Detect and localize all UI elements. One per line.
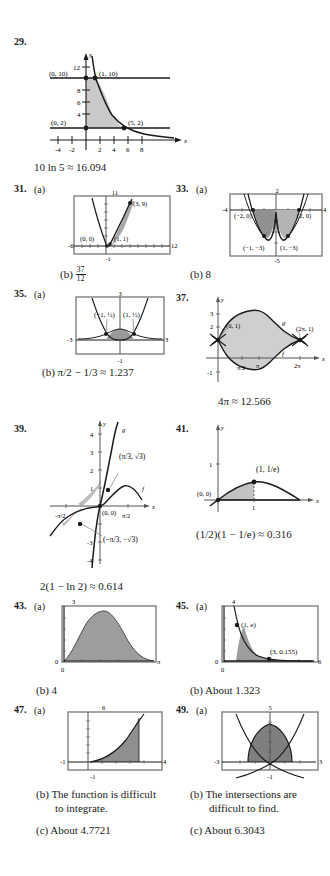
curve-label-f: f [142, 485, 145, 493]
part-label-49a: (a) [196, 705, 207, 716]
svg-text:π/2: π/2 [122, 512, 130, 519]
answer-47c: (c) About 4.7721 [36, 824, 111, 838]
svg-text:3: 3 [210, 310, 213, 317]
part-label-43a: (a) [34, 601, 45, 612]
problem-number-43: 43. [14, 600, 27, 611]
answer-49c: (c) About 6.3043 [190, 824, 265, 838]
point-label: (1, 1/e) [256, 465, 279, 474]
window-left-35: -3 [67, 336, 72, 343]
svg-text:-π/2: -π/2 [55, 512, 66, 519]
answer-37: 4π ≈ 12.566 [218, 395, 271, 407]
svg-text:π/2: π/2 [237, 364, 245, 371]
svg-text:2: 2 [210, 323, 213, 330]
point-label: (0, 10) [49, 70, 68, 78]
svg-text:1: 1 [90, 485, 93, 492]
svg-text:3: 3 [90, 449, 93, 456]
svg-text:4: 4 [90, 431, 94, 438]
window-bottom-47: -1 [90, 773, 95, 780]
svg-text:6: 6 [77, 99, 81, 107]
svg-text:x: x [183, 137, 188, 145]
answer-31b-prefix: (b) [60, 268, 73, 280]
svg-text:-4: -4 [87, 557, 93, 564]
answer-45b: (b) About 1.323 [190, 684, 260, 696]
answer-49b-line1: (b) The intersections are [190, 788, 330, 802]
problem-number-29: 29. [14, 36, 27, 47]
fraction-denominator: 12 [76, 275, 86, 283]
graph-29: -4 -2 2 4 6 8 12 8 6 4 x y (0, 10) (1, 1… [40, 40, 190, 160]
svg-text:2: 2 [98, 146, 102, 154]
window-right-35: 3 [165, 336, 168, 343]
problem-number-37: 37. [176, 292, 189, 303]
problem-number-49: 49. [176, 704, 189, 715]
window-top-45: 4 [232, 598, 236, 605]
svg-text:6: 6 [126, 146, 130, 154]
window-right-45: 6 [318, 658, 322, 665]
svg-text:1: 1 [209, 461, 212, 468]
curve-label-g: g [282, 319, 286, 327]
window-right-33: 4 [323, 206, 327, 213]
part-label-31a: (a) [34, 184, 45, 195]
graph-47: 6 -1 -1 4 [60, 702, 172, 780]
part-label-47a: (a) [34, 705, 45, 716]
window-bottom-45: 0 [221, 666, 224, 673]
part-label-45a: (a) [196, 601, 207, 612]
curve-label-f: f [282, 350, 285, 358]
window-left-31: -6 [68, 242, 74, 249]
problem-number-39: 39. [14, 423, 27, 434]
window-top-49: 5 [268, 704, 271, 711]
graph-37: y x 3 2 -1 π/2 π 2π (0, 1) (2π, 1) g f [196, 288, 330, 392]
point-label: (0, 0) [102, 509, 116, 517]
part-label-35a: (a) [34, 289, 45, 300]
answer-31b: (b) 37 12 [60, 266, 86, 284]
answer-33b: (b) 8 [190, 268, 211, 280]
window-top-47: 6 [102, 704, 106, 711]
window-bottom-33: -5 [274, 257, 279, 264]
problem-number-41: 41. [176, 423, 189, 434]
point-label: (0, 0) [197, 490, 211, 498]
window-right-43: π [157, 658, 161, 665]
problem-number-47: 47. [14, 704, 27, 715]
graph-49: 5 -1 -3 3 [214, 702, 330, 780]
point-label: (2π, 1) [296, 325, 313, 333]
point-label: (5, 2) [128, 119, 144, 127]
problem-number-45: 45. [176, 600, 189, 611]
svg-text:x: x [315, 497, 319, 504]
svg-text:y: y [220, 296, 224, 303]
point-label: (1, −3) [280, 244, 298, 252]
svg-text:4: 4 [112, 146, 116, 154]
point-label: (0, 1) [226, 322, 240, 330]
window-top-35: 3 [118, 290, 121, 297]
graph-35: 3 -1 -3 3 (−1, ½) (1, ½) [66, 290, 176, 364]
svg-text:-2: -2 [69, 146, 75, 154]
svg-text:8: 8 [140, 146, 144, 154]
answer-43b: (b) 4 [36, 684, 57, 696]
svg-text:2: 2 [90, 467, 93, 474]
window-top-43: 3 [72, 598, 75, 605]
svg-text:4: 4 [77, 111, 81, 119]
graph-41: y x 1 1 (0, 0) (1, 1/e) [196, 420, 328, 520]
graph-43: 3 0 0 π [52, 596, 168, 672]
point-label: (3, 9) [133, 200, 147, 208]
window-left-45: 0 [215, 658, 218, 665]
svg-text:x: x [321, 355, 325, 362]
window-right-31: 12 [171, 242, 178, 249]
point-label: (−1, ½) [94, 311, 116, 319]
answer-key-page: 29. [0, 0, 330, 876]
window-left-49: -3 [214, 758, 219, 765]
point-label: (1, ½) [123, 311, 141, 319]
problem-number-33: 33. [176, 183, 189, 194]
point-label: (3, 0.155) [270, 648, 298, 656]
point-label: (−π/3, −√3) [103, 535, 138, 544]
svg-text:12: 12 [73, 64, 81, 72]
point-label: (π/3, √3) [119, 452, 146, 461]
svg-text:-4: -4 [55, 146, 61, 154]
answer-29: 10 ln 5 ≈ 16.094 [34, 161, 106, 173]
graph-39: y x 4 3 2 1 -3 -4 -π/2 π/2 (0, 0) (π/3, … [42, 418, 166, 570]
point-label: (0, 0) [80, 235, 94, 243]
graph-45: 4 0 0 6 (1, e) (3, 0.155) [212, 596, 330, 672]
svg-text:2π: 2π [294, 362, 301, 369]
answer-49b-line2: difficult to find. [190, 802, 330, 816]
point-label: (−1, −3) [243, 244, 264, 252]
problem-number-31: 31. [14, 183, 27, 194]
window-right-49: 3 [319, 758, 322, 765]
